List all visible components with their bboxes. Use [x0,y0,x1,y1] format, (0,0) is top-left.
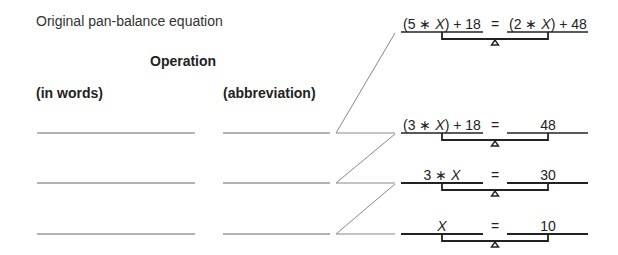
equation-right-side: 10 [540,218,556,234]
equation-left-side: 3 ∗ X [424,167,462,183]
answer-blanks [37,133,330,234]
fulcrum-icon [492,191,499,196]
equation-left-side: X [436,218,447,234]
equals-sign: = [491,117,499,133]
balance-beam [442,32,548,39]
equation-right-side: 48 [540,117,556,133]
connector-3 [336,184,395,234]
equation-row-4: X=10 [401,218,588,247]
equals-sign: = [491,167,499,183]
equation-right-side: 30 [540,167,556,183]
balance-beam [442,183,548,190]
equation-left-side: (3 ∗ X) + 18 [403,117,481,133]
equals-sign: = [491,218,499,234]
equation-row-3: 3 ∗ X=30 [401,167,588,196]
equation-row-1: (5 ∗ X) + 18=(2 ∗ X) + 48 [401,16,588,45]
equation-right-side: (2 ∗ X) + 48 [509,16,587,32]
pan-balance-diagram: (5 ∗ X) + 18=(2 ∗ X) + 48(3 ∗ X) + 18=48… [0,0,618,255]
connector-2 [336,134,395,183]
equation-row-2: (3 ∗ X) + 18=48 [401,117,588,146]
fulcrum-icon [492,242,499,247]
fulcrum-icon [492,40,499,45]
equals-sign: = [491,16,499,32]
connector-1 [336,33,395,133]
step-connectors [336,33,395,234]
fulcrum-icon [492,141,499,146]
balance-beam [442,133,548,140]
equation-left-side: (5 ∗ X) + 18 [403,16,481,32]
balance-beam [442,234,548,241]
